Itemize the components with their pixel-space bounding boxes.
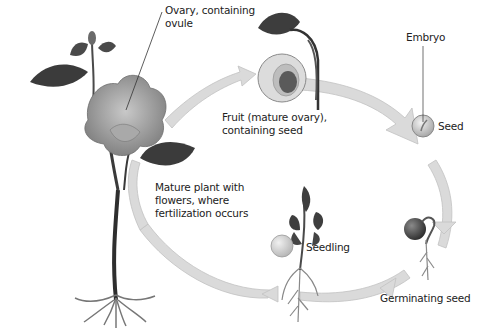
seed-illustration xyxy=(412,46,434,137)
embryo-label: Embryo xyxy=(406,31,445,44)
ovary-label: Ovary, containing ovule xyxy=(165,4,255,30)
germinating-seed-label: Germinating seed xyxy=(380,292,471,305)
mature-plant-illustration xyxy=(30,31,195,328)
seedling-label: Seedling xyxy=(306,241,350,254)
seed-label: Seed xyxy=(438,120,463,133)
germinating-seed-illustration xyxy=(404,218,434,280)
mature-plant-label: Mature plant with flowers, where fertili… xyxy=(155,181,248,220)
fruit-label: Fruit (mature ovary), containing seed xyxy=(222,111,327,137)
fruit-illustration xyxy=(258,13,318,110)
plant-life-cycle-diagram: Ovary, containing ovule Fruit (mature ov… xyxy=(0,0,486,335)
diagram-artwork xyxy=(0,0,486,335)
